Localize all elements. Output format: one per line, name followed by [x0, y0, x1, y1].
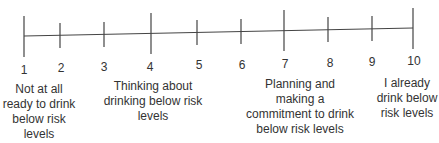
tick-label-4: 4 — [140, 60, 160, 74]
tick-label-9: 9 — [362, 55, 382, 69]
tick-label-6: 6 — [232, 58, 252, 72]
tick-label-3: 3 — [94, 60, 114, 74]
anchor-label-planning: Planning and making a commitment to drin… — [245, 77, 355, 137]
tick-label-10: 10 — [404, 54, 424, 68]
tick-label-8: 8 — [320, 56, 340, 70]
tick-label-5: 5 — [189, 58, 209, 72]
tick-label-7: 7 — [275, 57, 295, 71]
anchor-label-thinking: Thinking about drinking below risk level… — [98, 79, 208, 124]
anchor-label-not-ready: Not at all ready to drink below risk lev… — [0, 82, 78, 142]
anchor-label-already: I already drink below risk levels — [375, 76, 439, 121]
tick-label-1: 1 — [14, 63, 34, 77]
tick-label-2: 2 — [51, 61, 71, 75]
